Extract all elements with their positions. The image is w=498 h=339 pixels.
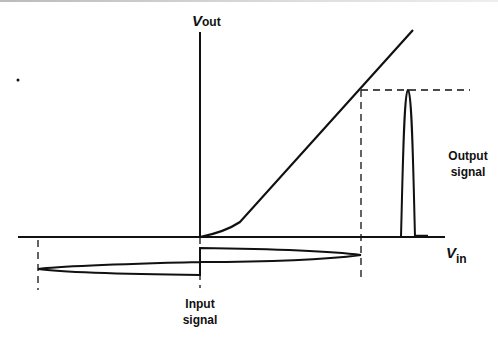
input-signal-waveform [38, 248, 361, 275]
x-axis-label: Vin [446, 244, 467, 261]
transfer-characteristic-diagram: Vout Vin Output signal Input signal [0, 0, 498, 339]
transfer-curve [200, 30, 413, 237]
output-signal-pulse [401, 90, 415, 237]
diagram-graphics [0, 0, 498, 339]
output-signal-label: Output signal [438, 148, 498, 180]
input-signal-label: Input signal [170, 296, 230, 328]
y-axis-label: Vout [192, 12, 221, 29]
stray-dot [17, 79, 20, 82]
